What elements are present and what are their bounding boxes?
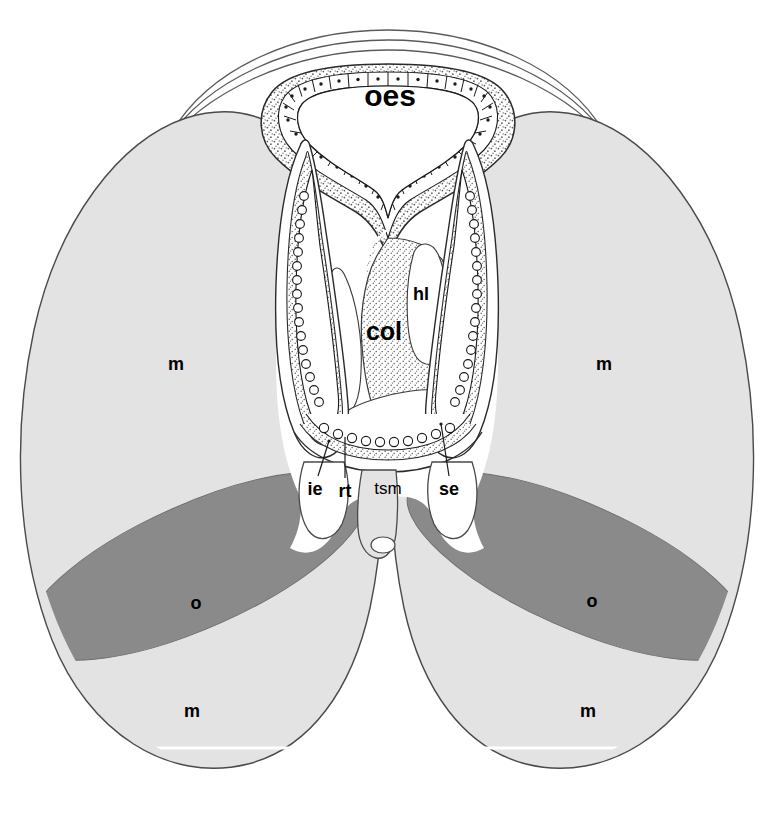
cross-section-drawing: oes hl col m m o o m m ie rt tsm se	[0, 0, 774, 827]
label-hl: hl	[413, 284, 429, 304]
label-m-right-lower: m	[580, 701, 596, 721]
label-m-left-lower: m	[184, 701, 200, 721]
label-col: col	[366, 317, 402, 345]
label-rt: rt	[339, 481, 352, 501]
anatomical-figure: oes hl col m m o o m m ie rt tsm se	[0, 0, 774, 827]
label-o-left: o	[191, 593, 202, 613]
label-se: se	[439, 479, 459, 499]
label-oes: oes	[364, 79, 416, 112]
label-ie: ie	[307, 479, 322, 499]
label-m-left-upper: m	[168, 354, 184, 374]
medial-duct-profile	[371, 537, 395, 553]
label-tsm: tsm	[374, 479, 401, 498]
label-m-right-upper: m	[596, 354, 612, 374]
right-foot-lobe	[428, 462, 477, 539]
label-o-right: o	[587, 591, 598, 611]
